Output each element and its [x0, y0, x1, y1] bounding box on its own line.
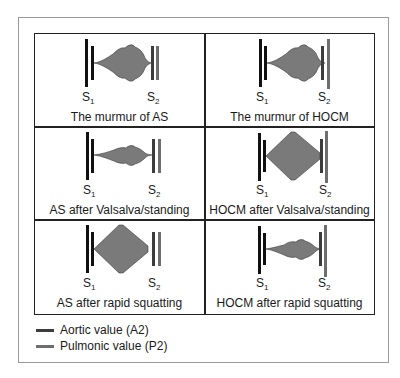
cell-as-valsalva: S1 S2 AS after Valsalva/standing: [35, 127, 204, 220]
pulmonic-bar: [324, 225, 327, 277]
s1-label: S1: [83, 276, 95, 292]
s1-bar: [264, 46, 267, 80]
aortic-bar: [152, 139, 155, 173]
s1-bar: [258, 226, 261, 274]
cell-caption: AS after Valsalva/standing: [35, 203, 204, 217]
legend-item-pulmonic: Pulmonic value (P2): [36, 339, 167, 353]
pulmonic-bar: [325, 131, 328, 183]
s1-bar: [263, 233, 266, 265]
s1-label: S1: [256, 276, 268, 292]
aortic-bar: [151, 46, 154, 80]
aortic-bar: [152, 232, 155, 266]
legend-label: Pulmonic value (P2): [60, 339, 167, 353]
cell-caption: The murmur of AS: [35, 110, 204, 124]
legend-label: Aortic value (A2): [60, 323, 149, 337]
legend-item-aortic: Aortic value (A2): [36, 323, 149, 337]
murmur-shape: [94, 45, 153, 81]
aortic-bar: [319, 232, 322, 266]
cell-hocm-baseline: S1 S2 The murmur of HOCM: [205, 34, 374, 127]
murmur-grid: S1 S2 The murmur of AS S1 S2 The murmur …: [34, 33, 375, 315]
murmur-shape: [94, 225, 148, 273]
cell-caption: HOCM after rapid squatting: [205, 296, 374, 310]
aortic-bar: [321, 46, 324, 80]
s1-bar: [258, 133, 261, 181]
s2-label: S2: [147, 90, 159, 106]
s1-bar: [91, 232, 94, 266]
pulmonic-bar: [327, 39, 330, 89]
s1-label: S1: [83, 183, 95, 199]
cell-caption: HOCM after Valsalva/standing: [205, 203, 374, 217]
aortic-swatch-icon: [36, 329, 54, 332]
aortic-bar: [320, 139, 323, 173]
murmur-shape: [266, 132, 320, 180]
pulmonic-bar: [158, 232, 161, 266]
s1-bar: [263, 140, 266, 172]
s2-label: S2: [318, 276, 330, 292]
s1-label: S1: [82, 90, 94, 106]
s1-bar: [86, 225, 89, 273]
s2-label: S2: [319, 183, 331, 199]
cell-hocm-squatting: S1 S2 HOCM after rapid squatting: [205, 220, 374, 313]
s1-bar: [259, 39, 262, 87]
cell-caption: The murmur of HOCM: [205, 110, 374, 124]
s1-bar: [85, 39, 88, 87]
s1-label: S1: [256, 90, 268, 106]
cell-hocm-valsalva: S1 S2 HOCM after Valsalva/standing: [205, 127, 374, 220]
murmur-shape: [94, 146, 153, 166]
pulmonic-bar: [158, 139, 161, 173]
murmur-shape: [266, 240, 322, 260]
s1-bar: [86, 132, 89, 180]
s2-label: S2: [318, 90, 330, 106]
cell-caption: AS after rapid squatting: [35, 296, 204, 310]
s2-label: S2: [148, 183, 160, 199]
cell-as-baseline: S1 S2 The murmur of AS: [35, 34, 204, 127]
cell-as-squatting: S1 S2 AS after rapid squatting: [35, 220, 204, 313]
murmur-shape: [267, 45, 325, 81]
s1-label: S1: [256, 183, 268, 199]
pulmonic-bar: [156, 46, 159, 80]
s2-label: S2: [148, 276, 160, 292]
s1-bar: [91, 139, 94, 173]
pulmonic-swatch-icon: [36, 345, 54, 348]
s1-bar: [91, 46, 94, 80]
